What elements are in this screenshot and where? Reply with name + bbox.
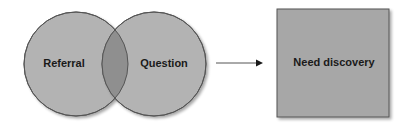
venn-flow-diagram: Referral Question Need discovery xyxy=(0,0,415,126)
referral-label: Referral xyxy=(43,57,85,69)
question-label: Question xyxy=(140,57,188,69)
venn-diagram: Referral Question xyxy=(24,12,206,116)
flow-arrow xyxy=(216,60,263,67)
arrowhead-icon xyxy=(256,60,263,67)
need-discovery-label: Need discovery xyxy=(293,56,375,68)
need-discovery-box: Need discovery xyxy=(277,9,389,117)
